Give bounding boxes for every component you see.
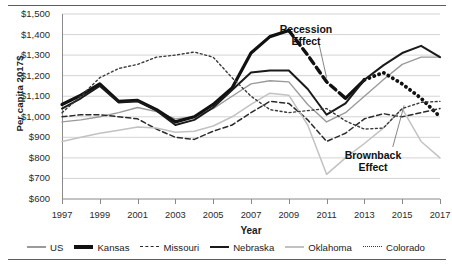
x-tick-mark (100, 199, 101, 204)
y-tick-label: $600 (6, 194, 50, 204)
x-tick-mark (402, 199, 403, 204)
legend-label: Kansas (97, 242, 129, 253)
chart-figure: Per capita 2017$ $1,500$1,400$1,300$1,20… (0, 0, 452, 268)
top-divider-rule (8, 5, 446, 6)
x-tick-mark (138, 199, 139, 204)
x-tick-label: 2005 (203, 210, 224, 220)
x-tick-label: 2015 (392, 210, 413, 220)
legend-item-us[interactable]: US (27, 242, 63, 253)
legend-swatch-colorado-icon (363, 243, 382, 251)
x-tick-label: 2011 (317, 210, 337, 220)
legend-label: Colorado (386, 242, 425, 253)
legend-item-oklahoma[interactable]: Oklahoma (285, 242, 352, 253)
annotation-brownback-line1: Brownback (330, 150, 416, 162)
y-tick-label: $1,100 (6, 91, 50, 101)
y-tick-label: $1,000 (6, 112, 50, 122)
annotation-recession-effect: Recession Effect (266, 24, 346, 47)
x-tick-label: 1997 (52, 210, 73, 220)
legend-item-nebraska[interactable]: Nebraska (210, 242, 274, 253)
annotation-recession-line1: Recession (266, 24, 346, 36)
legend-swatch-us-icon (27, 243, 46, 251)
legend-swatch-kansas-icon (74, 243, 93, 251)
bottom-divider-rule (8, 259, 446, 260)
y-tick-label: $700 (6, 173, 50, 183)
legend-item-missouri[interactable]: Missouri (140, 242, 199, 253)
y-tick-label: $1,400 (6, 30, 50, 40)
legend-label: US (50, 242, 63, 253)
x-tick-label: 2001 (127, 210, 148, 220)
legend-swatch-oklahoma-icon (285, 243, 304, 251)
legend-label: Nebraska (233, 242, 274, 253)
x-tick-mark (251, 199, 252, 204)
x-tick-mark (364, 199, 365, 204)
x-tick-label: 2017 (430, 210, 451, 220)
x-tick-label: 1999 (89, 210, 110, 220)
annotation-brownback-line2: Effect (330, 162, 416, 174)
x-tick-label: 2007 (241, 210, 262, 220)
legend-label: Oklahoma (308, 242, 352, 253)
legend-item-kansas[interactable]: Kansas (74, 242, 129, 253)
x-tick-mark (289, 199, 290, 204)
annotation-recession-line2: Effect (266, 36, 346, 48)
legend-swatch-missouri-icon (140, 243, 159, 251)
x-tick-mark (213, 199, 214, 204)
y-tick-label: $900 (6, 132, 50, 142)
x-tick-mark (175, 199, 176, 204)
chart-legend: USKansasMissouriNebraskaOklahomaColorado (0, 239, 452, 255)
x-tick-label: 2003 (165, 210, 186, 220)
x-tick-mark (440, 199, 441, 204)
x-tick-mark (327, 199, 328, 204)
x-tick-label: 2013 (354, 210, 375, 220)
leader-brownback (393, 105, 404, 147)
y-axis-tick-labels: $1,500$1,400$1,300$1,200$1,100$1,000$900… (4, 0, 50, 268)
y-tick-label: $1,200 (6, 71, 50, 81)
annotation-brownback-effect: Brownback Effect (330, 150, 416, 173)
legend-item-colorado[interactable]: Colorado (363, 242, 425, 253)
x-tick-mark (62, 199, 63, 204)
y-tick-label: $800 (6, 153, 50, 163)
y-tick-label: $1,500 (6, 9, 50, 19)
x-tick-label: 2009 (278, 210, 299, 220)
x-axis-title: Year (62, 225, 440, 236)
y-tick-label: $1,300 (6, 50, 50, 60)
leader-recession (319, 44, 327, 78)
legend-label: Missouri (163, 242, 199, 253)
legend-swatch-nebraska-icon (210, 243, 229, 251)
